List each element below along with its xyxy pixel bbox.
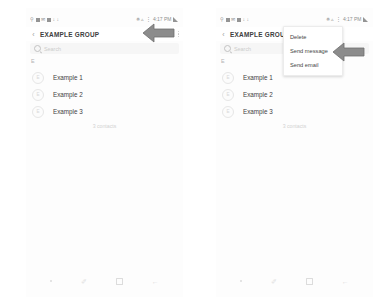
nav-home-icon[interactable] (306, 278, 313, 285)
list-item[interactable]: E Example 3 (26, 103, 183, 120)
contact-name: Example 2 (53, 91, 83, 98)
wifi-call-icon: ⚲ (30, 15, 34, 24)
nav-home-icon[interactable] (116, 278, 123, 285)
page-title: EXAMPLE GROUP (40, 31, 99, 38)
status-bar-left-icons: ⚲ ✉ ↓ ↓ (30, 15, 59, 24)
section-index-header: E (31, 58, 35, 64)
status-bar: ⚲ ✉ ↓ ↓ ✵ ▵ ⋮ 4:17 PM (216, 15, 373, 24)
download-icon: ↓ (242, 15, 245, 24)
back-icon[interactable]: ‹ (29, 31, 38, 38)
page-title: EXAMPLE GROUP (230, 31, 289, 38)
nav-back-icon[interactable]: ← (342, 278, 349, 285)
list-item[interactable]: E Example 1 (26, 69, 183, 86)
arrow-to-send-message (331, 41, 366, 63)
contact-name: Example 2 (243, 91, 273, 98)
search-placeholder: Search (44, 46, 61, 52)
section-index-header: E (221, 58, 225, 64)
avatar: E (32, 72, 44, 84)
avatar: E (32, 89, 44, 101)
back-icon[interactable]: ‹ (219, 31, 228, 38)
gallery-icon (237, 18, 241, 22)
message-icon: ✉ (41, 15, 45, 24)
search-placeholder: Search (234, 46, 251, 52)
app-icon (36, 18, 40, 22)
phone-screen-group-detail: ⚲ ✉ ↓ ↓ ✵ ▵ ⋮ 4:17 PM ‹ EXAMPLE GROUP Ed… (26, 8, 183, 297)
bluetooth-icon: ✵ (326, 15, 330, 24)
download-icon-2: ↓ (57, 15, 60, 24)
contact-name: Example 3 (53, 108, 83, 115)
list-item[interactable]: E Example 3 (216, 103, 373, 120)
search-icon (224, 45, 231, 52)
avatar: E (222, 72, 234, 84)
nav-pen-icon[interactable]: ✐ (271, 278, 277, 285)
search-icon (34, 45, 41, 52)
search-field[interactable]: Search (30, 43, 179, 54)
status-bar-right-icons: ✵ ▵ ⋮ 4:17 PM (326, 15, 368, 24)
contact-name: Example 1 (53, 74, 83, 81)
nav-dot-icon[interactable] (50, 280, 52, 282)
wifi-icon: ▵ (331, 15, 334, 24)
avatar: E (32, 106, 44, 118)
nav-pen-icon[interactable]: ✐ (81, 278, 87, 285)
contact-name: Example 3 (243, 108, 273, 115)
more-options-icon[interactable] (178, 31, 179, 37)
list-item[interactable]: E Example 2 (26, 86, 183, 103)
wifi-call-icon: ⚲ (220, 15, 224, 24)
download-icon: ↓ (52, 15, 55, 24)
avatar: E (222, 106, 234, 118)
bluetooth-icon: ✵ (136, 15, 140, 24)
status-bar-time: 4:17 PM (343, 15, 362, 24)
signal-icon (363, 17, 368, 22)
app-icon (226, 18, 230, 22)
list-item[interactable]: E Example 2 (216, 86, 373, 103)
status-bar-left-icons: ⚲ ✉ ↓ ↓ (220, 15, 249, 24)
contact-name: Example 1 (243, 74, 273, 81)
nav-dot-icon[interactable] (240, 280, 242, 282)
nav-back-icon[interactable]: ← (152, 278, 159, 285)
contact-list: E Example 1 E Example 2 E Example 3 (26, 69, 183, 120)
arrow-to-more-options (141, 22, 176, 44)
download-icon-2: ↓ (247, 15, 250, 24)
contacts-count: 3 contacts (26, 123, 183, 129)
navigation-bar: ✐ ← (26, 273, 183, 289)
vibrate-icon: ⋮ (336, 15, 341, 24)
contacts-count: 3 contacts (216, 123, 373, 129)
avatar: E (222, 89, 234, 101)
navigation-bar: ✐ ← (216, 273, 373, 289)
contact-list: E Example 1 E Example 2 E Example 3 (216, 69, 373, 120)
screenshot-stage: ⚲ ✉ ↓ ↓ ✵ ▵ ⋮ 4:17 PM ‹ EXAMPLE GROUP Ed… (0, 0, 384, 305)
gallery-icon (47, 18, 51, 22)
message-icon: ✉ (231, 15, 235, 24)
